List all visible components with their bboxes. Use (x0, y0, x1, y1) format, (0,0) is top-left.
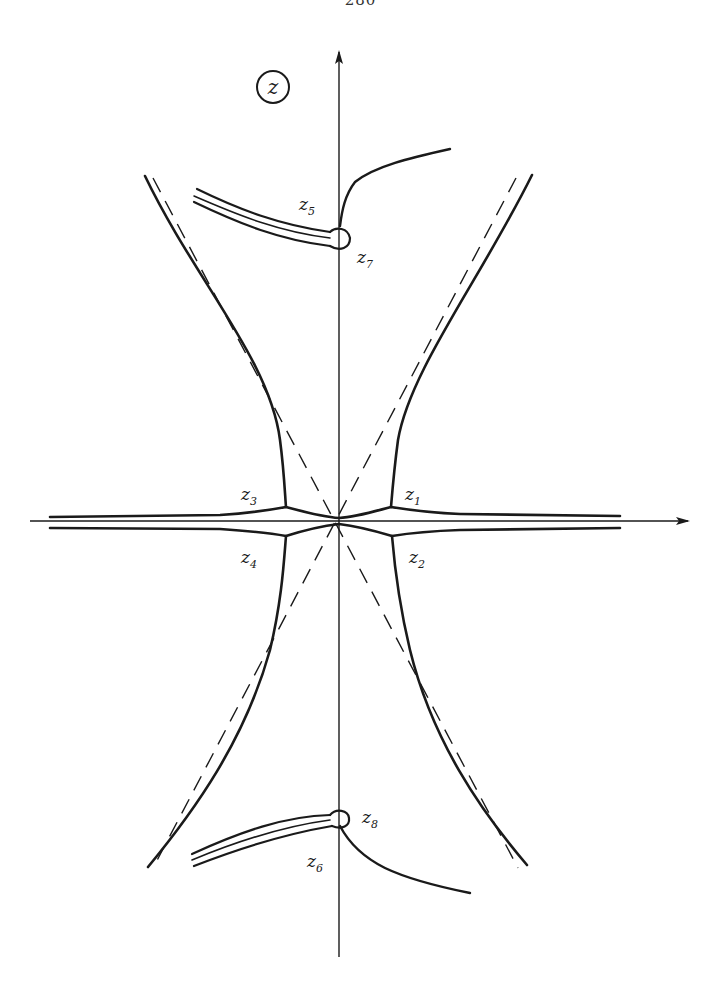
label-z8: z8 (361, 807, 378, 831)
cut-lower (50, 524, 620, 536)
lower-tail (340, 826, 470, 893)
complex-plane-diagram: z z1 (0, 0, 721, 1005)
label-z7: z7 (356, 247, 373, 271)
branch-upper-left (145, 176, 286, 507)
asymptotes (153, 178, 518, 868)
branch-lower-right (392, 536, 527, 865)
keyhole-upper (194, 149, 450, 249)
label-z3: z3 (240, 484, 257, 508)
keyhole-lower (192, 811, 470, 893)
label-z5: z5 (298, 194, 315, 218)
plane-label: z (267, 75, 279, 99)
axes (30, 52, 688, 957)
label-z1: z1 (404, 484, 421, 508)
upper-tail (340, 149, 450, 226)
branch-lower-left (148, 536, 286, 867)
label-z4: z4 (240, 547, 257, 571)
label-z6: z6 (306, 851, 323, 875)
cut-upper (50, 507, 620, 518)
label-z2: z2 (408, 547, 425, 571)
plane-label-badge: z (257, 71, 289, 103)
branch-upper-right (391, 175, 532, 507)
